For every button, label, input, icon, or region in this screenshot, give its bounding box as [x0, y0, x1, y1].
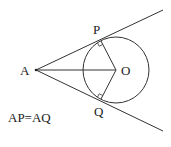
label-p: P	[93, 22, 100, 37]
label-o: O	[121, 63, 130, 78]
radius-oq	[101, 70, 116, 99]
tangent-line-aq	[36, 70, 163, 131]
radius-op	[101, 41, 116, 70]
point-a-dot	[35, 69, 38, 72]
equation-ap-aq: AP=AQ	[8, 110, 51, 125]
tangent-line-ap	[36, 10, 163, 70]
label-a: A	[20, 63, 30, 78]
label-q: Q	[94, 104, 104, 119]
tangent-circle-diagram: A O P Q AP=AQ	[0, 0, 171, 147]
